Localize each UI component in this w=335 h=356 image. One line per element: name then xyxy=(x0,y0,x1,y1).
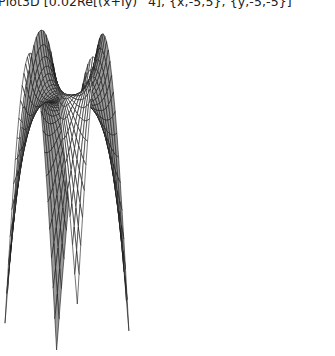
surface-mesh xyxy=(5,30,129,350)
surface-plot xyxy=(0,0,335,356)
